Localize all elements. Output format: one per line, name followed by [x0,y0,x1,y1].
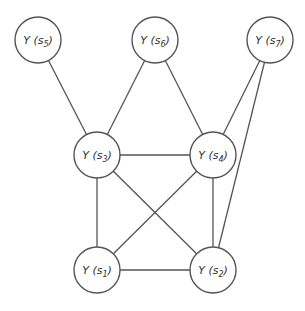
node-s3: Y (s3) [74,132,120,178]
node-label: Y (s7) [255,34,285,49]
node-label: Y (s2) [198,264,228,279]
node-s6: Y (s6) [132,17,178,63]
node-label: Y (s5) [23,34,53,49]
node-s7: Y (s7) [247,17,293,63]
node-label: Y (s4) [198,149,228,164]
node-s4: Y (s4) [190,132,236,178]
node-label: Y (s3) [82,149,112,164]
node-label: Y (s1) [82,264,112,279]
graph-diagram: Y (s1)Y (s2)Y (s3)Y (s4)Y (s5)Y (s6)Y (s… [0,0,305,311]
node-s5: Y (s5) [15,17,61,63]
node-s1: Y (s1) [74,247,120,293]
node-s2: Y (s2) [190,247,236,293]
node-label: Y (s6) [140,34,170,49]
